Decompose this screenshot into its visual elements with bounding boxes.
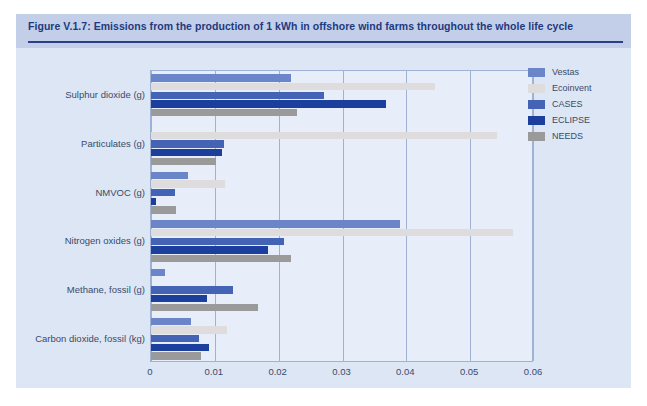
legend-label: Ecoinvent bbox=[552, 83, 592, 93]
legend-swatch-icon bbox=[528, 100, 545, 109]
bar bbox=[151, 344, 209, 352]
x-axis-tick-labels: 00.010.020.030.040.050.06 bbox=[150, 364, 533, 384]
legend-label: CASES bbox=[552, 99, 583, 109]
category-axis-labels: Sulphur dioxide (g)Particulates (g)NMVOC… bbox=[16, 70, 145, 362]
page-title: Figure V.1.7: Emissions from the product… bbox=[28, 20, 573, 32]
legend-item-eclipse[interactable]: ECLIPSE bbox=[528, 114, 628, 126]
bar bbox=[151, 189, 175, 197]
legend-swatch-icon bbox=[528, 84, 545, 93]
legend-swatch-icon bbox=[528, 132, 545, 141]
category-label: Nitrogen oxides (g) bbox=[65, 235, 145, 246]
bar bbox=[151, 140, 224, 148]
legend-label: Vestas bbox=[552, 67, 579, 77]
bar bbox=[151, 109, 297, 117]
category-label: Particulates (g) bbox=[81, 138, 145, 149]
bar bbox=[151, 74, 291, 82]
bar bbox=[151, 246, 268, 254]
chart-legend: VestasEcoinventCASESECLIPSENEEDS bbox=[528, 66, 628, 146]
legend-swatch-icon bbox=[528, 116, 545, 125]
x-tick-label: 0.04 bbox=[396, 366, 415, 377]
bar bbox=[151, 318, 191, 326]
title-underline bbox=[28, 41, 623, 43]
bar bbox=[151, 304, 258, 312]
bar bbox=[151, 255, 291, 263]
bar bbox=[151, 352, 201, 360]
category-label: Sulphur dioxide (g) bbox=[65, 89, 145, 100]
category-label: Carbon dioxide, fossil (kg) bbox=[35, 332, 145, 343]
legend-item-vestas[interactable]: Vestas bbox=[528, 66, 628, 78]
legend-item-cases[interactable]: CASES bbox=[528, 98, 628, 110]
category-label: Methane, fossil (g) bbox=[67, 284, 145, 295]
x-tick-label: 0.01 bbox=[205, 366, 224, 377]
bar bbox=[151, 220, 400, 228]
legend-label: ECLIPSE bbox=[552, 115, 590, 125]
bar bbox=[151, 238, 284, 246]
x-tick-label: 0 bbox=[147, 366, 152, 377]
figure-title-band: Figure V.1.7: Emissions from the product… bbox=[16, 14, 631, 48]
bar bbox=[151, 172, 188, 180]
bar bbox=[151, 92, 324, 100]
bar bbox=[151, 286, 233, 294]
bar bbox=[151, 229, 513, 237]
category-label: NMVOC (g) bbox=[95, 186, 145, 197]
figure-body: Sulphur dioxide (g)Particulates (g)NMVOC… bbox=[16, 48, 631, 388]
x-tick-label: 0.06 bbox=[524, 366, 543, 377]
legend-item-ecoinvent[interactable]: Ecoinvent bbox=[528, 82, 628, 94]
legend-swatch-icon bbox=[528, 68, 545, 77]
bar bbox=[151, 295, 207, 303]
x-tick-label: 0.03 bbox=[332, 366, 351, 377]
x-tick-label: 0.05 bbox=[460, 366, 479, 377]
bar bbox=[151, 198, 156, 206]
bar bbox=[151, 326, 227, 334]
bar bbox=[151, 269, 165, 277]
plot-area bbox=[150, 70, 533, 362]
figure-page: Figure V.1.7: Emissions from the product… bbox=[0, 0, 647, 406]
bar bbox=[151, 132, 497, 140]
bar bbox=[151, 335, 199, 343]
bar bbox=[151, 158, 216, 166]
bar bbox=[151, 206, 176, 214]
bar bbox=[151, 100, 386, 108]
legend-label: NEEDS bbox=[552, 131, 583, 141]
x-tick-label: 0.02 bbox=[268, 366, 287, 377]
bar bbox=[151, 149, 222, 157]
bars-layer bbox=[151, 71, 532, 361]
legend-item-needs[interactable]: NEEDS bbox=[528, 130, 628, 142]
bar bbox=[151, 83, 435, 91]
bar bbox=[151, 180, 225, 188]
